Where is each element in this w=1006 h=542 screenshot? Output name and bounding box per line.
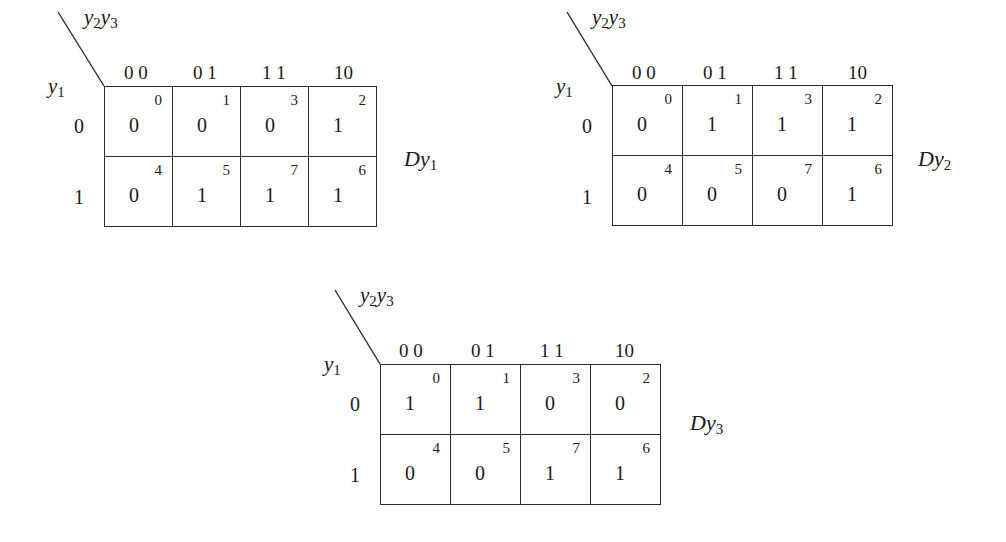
kmap-cell: 11 — [683, 86, 753, 156]
minterm-index: 6 — [643, 440, 651, 457]
minterm-index: 0 — [155, 92, 163, 109]
row-variable-label: y1 — [556, 74, 573, 101]
row-variable-label: y1 — [324, 352, 341, 379]
cell-value: 0 — [475, 462, 485, 485]
cell-value: 1 — [265, 184, 275, 207]
cell-value: 1 — [333, 114, 343, 137]
column-header: 0 0 — [632, 62, 656, 84]
minterm-index: 5 — [735, 161, 743, 178]
kmap-cell: 05 — [683, 156, 753, 226]
minterm-index: 2 — [359, 92, 367, 109]
kmap-row: 10 11 03 02 — [381, 365, 661, 435]
row-header: 1 — [74, 186, 84, 209]
minterm-index: 3 — [573, 370, 581, 387]
kmap-cell: 12 — [309, 87, 377, 157]
cell-value: 0 — [777, 183, 787, 206]
kmap-cell: 17 — [241, 157, 309, 227]
kmap-grid: 00 01 03 12 04 15 17 16 — [104, 86, 377, 227]
kmap-grid: 10 11 03 02 04 05 17 16 — [380, 364, 661, 505]
kmap-cell: 12 — [823, 86, 893, 156]
kmap-row: 04 05 17 16 — [381, 435, 661, 505]
cell-value: 1 — [545, 462, 555, 485]
kmap-cell: 04 — [105, 157, 173, 227]
cell-value: 1 — [615, 462, 625, 485]
kmap-cell: 04 — [613, 156, 683, 226]
cell-value: 0 — [707, 183, 717, 206]
cell-value: 0 — [405, 462, 415, 485]
cell-value: 1 — [405, 392, 415, 415]
cell-value: 0 — [265, 114, 275, 137]
kmap-cell: 16 — [591, 435, 661, 505]
function-label: Dy2 — [918, 146, 951, 174]
minterm-index: 0 — [433, 370, 441, 387]
column-header: 0 0 — [399, 340, 423, 362]
column-variable-label: y2y3 — [592, 5, 626, 32]
kmap-row: 04 05 07 16 — [613, 156, 893, 226]
minterm-index: 7 — [805, 161, 813, 178]
kmap-cell: 02 — [591, 365, 661, 435]
column-header: 10 — [848, 62, 867, 84]
minterm-index: 1 — [503, 370, 511, 387]
column-header: 1 1 — [540, 340, 564, 362]
cell-value: 1 — [475, 392, 485, 415]
row-variable-label: y1 — [48, 74, 65, 101]
minterm-index: 4 — [155, 162, 163, 179]
cell-value: 1 — [847, 183, 857, 206]
kmap-dy2: y2y3 y1 0 0 0 1 1 1 10 0 1 00 11 13 12 0… — [508, 0, 1006, 250]
kmap-cell: 01 — [173, 87, 241, 157]
kmap-cell: 03 — [521, 365, 591, 435]
cell-value: 1 — [333, 184, 343, 207]
minterm-index: 3 — [805, 91, 813, 108]
kmap-cell: 16 — [309, 157, 377, 227]
cell-value: 0 — [637, 113, 647, 136]
cell-value: 0 — [615, 392, 625, 415]
kmap-cell: 07 — [753, 156, 823, 226]
column-variable-label: y2y3 — [360, 283, 394, 310]
column-header: 0 1 — [471, 340, 495, 362]
cell-value: 0 — [197, 114, 207, 137]
row-header: 0 — [350, 393, 360, 416]
column-header: 0 1 — [193, 62, 217, 84]
column-header: 1 1 — [774, 62, 798, 84]
cell-value: 1 — [197, 184, 207, 207]
kmap-cell: 11 — [451, 365, 521, 435]
kmap-row: 04 15 17 16 — [105, 157, 377, 227]
minterm-index: 7 — [291, 162, 299, 179]
minterm-index: 6 — [359, 162, 367, 179]
column-header: 10 — [334, 62, 353, 84]
minterm-index: 3 — [291, 92, 299, 109]
cell-value: 0 — [129, 114, 139, 137]
column-header: 1 1 — [262, 62, 286, 84]
kmap-cell: 05 — [451, 435, 521, 505]
minterm-index: 2 — [643, 370, 651, 387]
function-label: Dy1 — [404, 146, 437, 174]
column-variable-label: y2y3 — [84, 5, 118, 32]
kmap-cell: 15 — [173, 157, 241, 227]
minterm-index: 5 — [223, 162, 231, 179]
column-header: 0 0 — [124, 62, 148, 84]
cell-value: 0 — [637, 183, 647, 206]
minterm-index: 4 — [665, 161, 673, 178]
cell-value: 0 — [129, 184, 139, 207]
column-header: 0 1 — [703, 62, 727, 84]
kmap-grid: 00 11 13 12 04 05 07 16 — [612, 85, 893, 226]
kmap-cell: 10 — [381, 365, 451, 435]
column-header: 10 — [615, 340, 634, 362]
kmap-cell: 17 — [521, 435, 591, 505]
minterm-index: 6 — [875, 161, 883, 178]
kmap-cell: 03 — [241, 87, 309, 157]
minterm-index: 2 — [875, 91, 883, 108]
cell-value: 1 — [847, 113, 857, 136]
kmap-cell: 04 — [381, 435, 451, 505]
row-header: 1 — [350, 464, 360, 487]
cell-value: 0 — [545, 392, 555, 415]
minterm-index: 1 — [223, 92, 231, 109]
minterm-index: 1 — [735, 91, 743, 108]
kmap-cell: 13 — [753, 86, 823, 156]
cell-value: 1 — [777, 113, 787, 136]
row-header: 0 — [74, 115, 84, 138]
kmap-dy1: y2y3 y1 0 0 0 1 1 1 10 0 1 00 01 03 12 0… — [0, 0, 500, 250]
minterm-index: 4 — [433, 440, 441, 457]
minterm-index: 0 — [665, 91, 673, 108]
kmap-row: 00 11 13 12 — [613, 86, 893, 156]
